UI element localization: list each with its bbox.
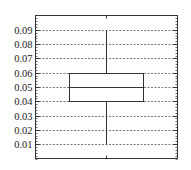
- y-tick-label: 0.04: [14, 96, 33, 107]
- y-tick-label: 0.07: [14, 53, 32, 64]
- box-series: [70, 31, 144, 145]
- y-tick-label: 0.06: [14, 68, 32, 79]
- y-tick-label: 0.03: [14, 111, 32, 122]
- y-tick-label: 0.05: [14, 82, 32, 93]
- y-tick-label: 0.02: [14, 125, 32, 136]
- box-plot: 0.010.020.030.040.050.060.070.080.09: [0, 0, 191, 170]
- y-tick-label: 0.08: [14, 39, 32, 50]
- y-tick-label: 0.09: [14, 25, 32, 36]
- y-tick-label: 0.01: [14, 139, 32, 150]
